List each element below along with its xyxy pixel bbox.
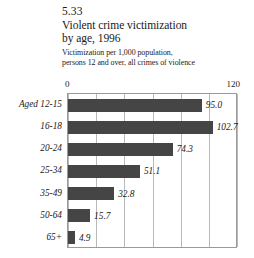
bar xyxy=(68,143,173,156)
category-label: 20-24 xyxy=(0,137,62,159)
y-axis-category-labels: Aged 12-1516-1820-2425-3435-4950-6465+ xyxy=(0,93,62,248)
bar-row: 74.3 xyxy=(68,138,236,160)
bar-row: 95.0 xyxy=(68,94,236,116)
x-axis-min-tick-label: 0 xyxy=(65,79,70,90)
category-label: 25-34 xyxy=(0,159,62,181)
bar-value-label: 4.9 xyxy=(79,233,91,243)
bar-value-label: 32.8 xyxy=(118,189,134,199)
category-label: 65+ xyxy=(0,226,62,248)
chart-subtitle: Victimization per 1,000 population, pers… xyxy=(62,48,248,68)
bar xyxy=(68,209,90,222)
chart-subtitle-line-2: persons 12 and over, all crimes of viole… xyxy=(62,58,248,68)
x-axis-labels: 0 120 xyxy=(67,79,237,91)
title-block: 5.33 Violent crime victimization by age,… xyxy=(62,5,248,68)
category-label: 35-49 xyxy=(0,182,62,204)
figure-number: 5.33 xyxy=(62,5,248,19)
bar xyxy=(68,99,202,112)
bar xyxy=(68,165,140,178)
bar xyxy=(68,187,114,200)
bar-row: 4.9 xyxy=(68,227,236,249)
page-title: Violent crime victimization by age, 1996 xyxy=(62,19,248,46)
x-axis-max-tick-label: 120 xyxy=(227,79,241,90)
chart-title-line-1: Violent crime victimization xyxy=(62,19,248,33)
bar-series: 95.0102.774.351.132.815.74.9 xyxy=(68,94,236,247)
category-label: Aged 12-15 xyxy=(0,93,62,115)
bar-row: 32.8 xyxy=(68,183,236,205)
bar-row: 102.7 xyxy=(68,116,236,138)
chart-subtitle-line-1: Victimization per 1,000 population, xyxy=(62,48,248,58)
bar-value-label: 15.7 xyxy=(94,211,110,221)
plot-area: 95.0102.774.351.132.815.74.9 xyxy=(67,93,237,248)
bar-row: 15.7 xyxy=(68,205,236,227)
bar-value-label: 95.0 xyxy=(206,100,222,110)
bar xyxy=(68,121,213,134)
gridline xyxy=(237,94,238,247)
bar-value-label: 51.1 xyxy=(144,166,160,176)
chart-title-line-2: by age, 1996 xyxy=(62,32,248,46)
bar xyxy=(68,231,75,244)
category-label: 50-64 xyxy=(0,204,62,226)
bar-row: 51.1 xyxy=(68,160,236,182)
bar-value-label: 102.7 xyxy=(217,122,238,132)
bar-value-label: 74.3 xyxy=(177,144,193,154)
category-label: 16-18 xyxy=(0,115,62,137)
